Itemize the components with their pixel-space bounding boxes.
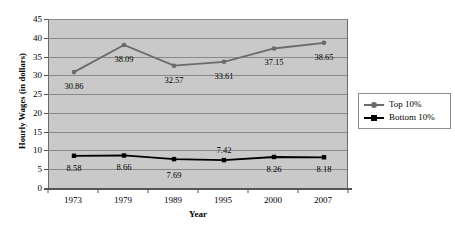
data-value-label: 8.58 xyxy=(67,164,82,173)
x-axis-tick-marks xyxy=(48,188,348,193)
data-value-label: 30.86 xyxy=(64,82,83,91)
data-value-label: 33.61 xyxy=(214,72,233,81)
data-value-label: 8.66 xyxy=(117,163,132,172)
legend-item-label: Bottom 10% xyxy=(385,112,435,123)
x-axis-tick-label: 1973 xyxy=(64,195,82,205)
legend-swatch-icon xyxy=(363,112,385,123)
y-axis-tick-label: 5 xyxy=(14,165,42,174)
y-axis-tick-label: 10 xyxy=(14,146,42,155)
y-axis-tick-labels: 454035302520151050 xyxy=(14,19,42,188)
x-axis-tick-label: 1995 xyxy=(214,195,232,205)
legend-swatch-icon xyxy=(363,99,385,110)
y-axis-tick-label: 15 xyxy=(14,127,42,136)
line-chart: Hourly Wages (in dollars) 45403530252015… xyxy=(0,0,455,230)
legend-item[interactable]: Top 10% xyxy=(363,98,447,111)
data-value-label: 8.26 xyxy=(267,165,282,174)
y-axis-tick-label: 45 xyxy=(14,15,42,24)
x-axis-tick-mark xyxy=(48,188,49,193)
data-value-label: 38.65 xyxy=(314,53,333,62)
data-value-label: 7.69 xyxy=(167,171,182,180)
data-value-label: 7.42 xyxy=(217,146,232,155)
x-axis-tick-mark xyxy=(248,188,249,193)
y-axis-tick-label: 30 xyxy=(14,71,42,80)
x-axis-tick-label: 1989 xyxy=(164,195,182,205)
y-axis-tick-label: 0 xyxy=(14,184,42,193)
x-axis-tick-mark xyxy=(348,188,349,193)
x-axis-tick-labels: 197319791989199520002007 xyxy=(48,195,348,207)
legend-item-label: Top 10% xyxy=(385,99,422,110)
plot-area: 30.8638.0932.5733.6137.1538.658.588.667.… xyxy=(48,19,348,188)
legend-item[interactable]: Bottom 10% xyxy=(363,111,447,124)
data-value-label: 32.57 xyxy=(164,76,183,85)
chart-legend: Top 10%Bottom 10% xyxy=(358,93,451,129)
x-axis-tick-label: 2000 xyxy=(264,195,282,205)
x-axis-tick-mark xyxy=(198,188,199,193)
x-axis-title: Year xyxy=(48,209,348,219)
data-value-label: 38.09 xyxy=(114,55,133,64)
y-axis-tick-label: 25 xyxy=(14,90,42,99)
x-axis-tick-label: 2007 xyxy=(314,195,332,205)
data-value-label: 8.18 xyxy=(317,165,332,174)
x-axis-tick-mark xyxy=(298,188,299,193)
data-value-label: 37.15 xyxy=(264,58,283,67)
y-axis-tick-label: 40 xyxy=(14,33,42,42)
x-axis-tick-mark xyxy=(98,188,99,193)
x-axis-tick-label: 1979 xyxy=(114,195,132,205)
y-axis-tick-label: 35 xyxy=(14,52,42,61)
y-axis-tick-label: 20 xyxy=(14,108,42,117)
data-value-labels: 30.8638.0932.5733.6137.1538.658.588.667.… xyxy=(49,19,347,188)
x-axis-tick-mark xyxy=(148,188,149,193)
